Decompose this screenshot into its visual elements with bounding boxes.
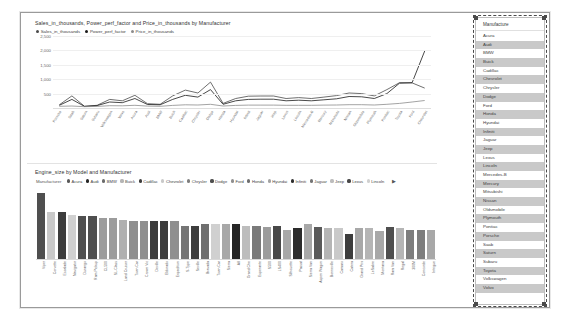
slicer-item-nissan[interactable]: Nissan — [476, 197, 544, 206]
slicer-item-subaru[interactable]: Subaru — [476, 258, 544, 267]
slicer-item-honda[interactable]: Honda — [476, 110, 544, 119]
slicer-item-porsche[interactable]: Porsche — [476, 232, 544, 241]
bar[interactable] — [263, 227, 271, 259]
legend-item[interactable]: Lincoln — [367, 179, 385, 184]
line-chart-visual[interactable]: Sales_in_thousands, Power_perf_factor an… — [27, 16, 437, 161]
bar[interactable] — [252, 226, 260, 259]
x-axis-tick-label: Subaru — [91, 110, 101, 122]
legend-item[interactable]: Cadillac — [139, 179, 158, 184]
bar[interactable] — [160, 221, 168, 259]
bar[interactable] — [140, 221, 148, 259]
legend-item[interactable]: Power_perf_factor — [85, 29, 126, 34]
bar[interactable] — [88, 216, 96, 259]
legend-item[interactable]: Buick — [120, 179, 135, 184]
bar-chart-visual[interactable]: Engine_size by Model and Manufacturer Ma… — [27, 165, 445, 306]
bar[interactable] — [78, 216, 86, 259]
legend-item[interactable]: Chevrolet — [161, 179, 183, 184]
resize-handle-bottom-left[interactable] — [474, 302, 478, 306]
bar[interactable] — [181, 226, 189, 259]
legend-item[interactable]: Chrysler — [187, 179, 207, 184]
resize-handle-bottom-right[interactable] — [542, 302, 546, 306]
bar[interactable] — [365, 228, 373, 259]
legend-item[interactable]: Jaguar — [310, 179, 327, 184]
manufacturer-slicer[interactable]: Manufacture AcuraAudiBMWBuickCadillacChe… — [475, 17, 545, 305]
resize-handle-top-left[interactable] — [474, 16, 478, 20]
slicer-item-chrysler[interactable]: Chrysler — [476, 84, 544, 93]
bar[interactable] — [324, 228, 332, 259]
slicer-item-toyota[interactable]: Toyota — [476, 267, 544, 276]
bar[interactable] — [232, 224, 240, 259]
bar[interactable] — [150, 221, 158, 259]
slicer-item-audi[interactable]: Audi — [476, 41, 544, 50]
bar[interactable] — [242, 226, 250, 259]
slicer-item-saab[interactable]: Saab — [476, 241, 544, 250]
legend-item[interactable]: Hyundai — [268, 179, 288, 184]
slicer-item-buick[interactable]: Buick — [476, 58, 544, 67]
slicer-item-chevrolet[interactable]: Chevrolet — [476, 75, 544, 84]
bar[interactable] — [99, 218, 107, 259]
bar[interactable] — [396, 228, 404, 259]
slicer-item-volvo[interactable]: Volvo — [476, 284, 544, 293]
slicer-item-ford[interactable]: Ford — [476, 102, 544, 111]
y-axis-tick-label: 1,000 — [40, 77, 51, 82]
bar-x-axis-label: Bonneville — [330, 261, 334, 277]
bar[interactable] — [375, 231, 383, 259]
legend-item[interactable]: Ford — [231, 179, 244, 184]
bar[interactable] — [334, 228, 342, 259]
slicer-item-cadillac[interactable]: Cadillac — [476, 67, 544, 76]
slicer-item-volkswagen[interactable]: Volkswagen — [476, 275, 544, 284]
legend-item[interactable]: Lexus — [347, 179, 363, 184]
slicer-item-lincoln[interactable]: Lincoln — [476, 162, 544, 171]
slicer-item-dodge[interactable]: Dodge — [476, 93, 544, 102]
slicer-item-pontiac[interactable]: Pontiac — [476, 223, 544, 232]
slicer-item-oldsmobile[interactable]: Oldsmobile — [476, 206, 544, 215]
legend-item[interactable]: Honda — [247, 179, 264, 184]
legend-item[interactable]: Jeep — [330, 179, 344, 184]
bar[interactable] — [109, 218, 117, 259]
bar[interactable] — [58, 212, 66, 259]
bar[interactable] — [68, 215, 76, 259]
legend-item[interactable]: BMW — [102, 179, 117, 184]
legend-item[interactable]: Price_in_thousands — [131, 29, 174, 34]
bar[interactable] — [191, 226, 199, 259]
bar[interactable] — [129, 221, 137, 259]
bar[interactable] — [345, 234, 353, 259]
slicer-item-mercury[interactable]: Mercury — [476, 180, 544, 189]
bar[interactable] — [222, 224, 230, 259]
legend-item[interactable]: Dodge — [210, 179, 227, 184]
slicer-item-plymouth[interactable]: Plymouth — [476, 214, 544, 223]
slicer-item-bmw[interactable]: BMW — [476, 49, 544, 58]
bar[interactable] — [386, 227, 394, 259]
bar[interactable] — [406, 230, 414, 259]
bar[interactable] — [119, 220, 127, 259]
slicer-item-list[interactable]: AcuraAudiBMWBuickCadillacChevroletChrysl… — [476, 31, 544, 293]
bar[interactable] — [283, 230, 291, 259]
bar[interactable] — [417, 230, 425, 259]
slicer-item-acura[interactable]: Acura — [476, 32, 544, 41]
bar[interactable] — [201, 224, 209, 259]
bar[interactable] — [427, 230, 435, 259]
bar[interactable] — [355, 228, 363, 259]
slicer-item-hyundai[interactable]: Hyundai — [476, 119, 544, 128]
legend-next-arrow-icon[interactable]: ▶ — [392, 178, 396, 184]
bar[interactable] — [170, 221, 178, 259]
legend-item[interactable]: Acura — [67, 179, 82, 184]
slicer-item-mitsubishi[interactable]: Mitsubishi — [476, 188, 544, 197]
slicer-item-saturn[interactable]: Saturn — [476, 249, 544, 258]
bar[interactable] — [314, 227, 322, 259]
resize-handle-top-right[interactable] — [542, 16, 546, 20]
bar-x-axis-label: Intrigue — [432, 261, 436, 273]
slicer-item-lexus[interactable]: Lexus — [476, 154, 544, 163]
slicer-item-jaguar[interactable]: Jaguar — [476, 136, 544, 145]
legend-item[interactable]: Audi — [86, 179, 99, 184]
legend-item[interactable]: Infiniti — [291, 179, 306, 184]
bar[interactable] — [273, 226, 281, 259]
slicer-item-infiniti[interactable]: Infiniti — [476, 128, 544, 137]
bar[interactable] — [37, 193, 45, 259]
bar[interactable] — [47, 212, 55, 259]
slicer-item-jeep[interactable]: Jeep — [476, 145, 544, 154]
slicer-item-mercedes-b[interactable]: Mercedes-B — [476, 171, 544, 180]
bar[interactable] — [293, 228, 301, 259]
bar[interactable] — [304, 224, 312, 259]
bar[interactable] — [211, 224, 219, 259]
